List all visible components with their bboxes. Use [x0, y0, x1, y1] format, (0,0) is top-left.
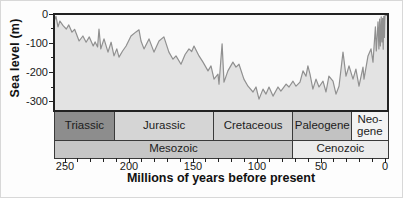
period-band-label-cretaceous: Cretaceous — [213, 111, 292, 140]
era-band-label-cenozoic: Cenozoic — [293, 140, 388, 158]
sea-level-figure: TriassicJurassicCretaceousPaleogeneNeo-g… — [0, 0, 403, 198]
period-band-label-neogene: Neo-gene — [352, 111, 388, 140]
y-tick-label--100: -100 — [22, 37, 48, 50]
x-tick-label-250: 250 — [47, 160, 83, 173]
y-tick-label--300: -300 — [22, 95, 48, 108]
era-band-label-mesozoic: Mesozoic — [54, 140, 293, 158]
x-tick-label-0: 0 — [367, 160, 403, 173]
y-axis-title: Sea level (m) — [8, 18, 22, 97]
period-band-label-paleogene: Paleogene — [293, 111, 352, 140]
period-band-label-triassic: Triassic — [54, 111, 115, 140]
period-band-label-jurassic: Jurassic — [115, 111, 214, 140]
y-tick-label-0: 0 — [22, 8, 48, 21]
x-axis-title: Millions of years before present — [127, 171, 315, 185]
y-tick-label--200: -200 — [22, 66, 48, 79]
